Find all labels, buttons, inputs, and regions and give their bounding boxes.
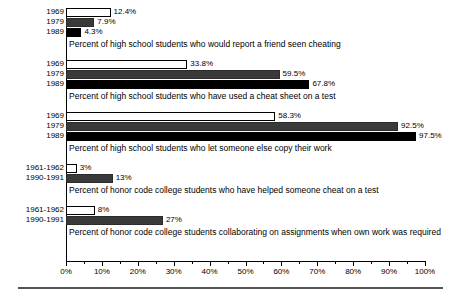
x-tick-major	[102, 262, 103, 266]
x-tick-label: 10%	[82, 267, 122, 277]
bar-group: 196933.8%197959.5%198967.8%Percent of hi…	[0, 60, 455, 103]
x-tick-label: 70%	[297, 267, 337, 277]
bar-category-label: 1989	[0, 79, 64, 89]
bar-value-label: 7.9%	[97, 17, 115, 27]
bar-category-label: 1969	[0, 7, 64, 17]
x-tick-major	[210, 262, 211, 266]
group-spacer	[0, 155, 455, 164]
bar	[66, 164, 77, 173]
x-tick-label: 80%	[333, 267, 373, 277]
x-tick-label: 100%	[405, 267, 445, 277]
bar-row: 1990-199113%	[0, 174, 455, 184]
group-spacer	[0, 51, 455, 60]
x-tick-major	[174, 262, 175, 266]
bar-value-label: 12.4%	[114, 7, 137, 17]
bar-row: 1990-199127%	[0, 216, 455, 226]
x-tick-minor	[299, 262, 300, 264]
bar-category-label: 1990-1991	[0, 173, 64, 183]
x-tick-label: 60%	[261, 267, 301, 277]
bar	[66, 28, 81, 37]
x-tick-minor	[192, 262, 193, 264]
bar	[66, 132, 416, 141]
bar-category-label: 1990-1991	[0, 215, 64, 225]
bar-value-label: 67.8%	[312, 79, 335, 89]
bar-row: 19797.9%	[0, 18, 455, 28]
cheating-statistics-bar-chart: 196912.4%19797.9%19894.3%Percent of high…	[0, 0, 455, 297]
bar-category-label: 1961-1962	[0, 205, 64, 215]
bar-category-label: 1979	[0, 17, 64, 27]
bar-value-label: 92.5%	[401, 121, 424, 131]
x-tick-minor	[228, 262, 229, 264]
bar-category-label: 1989	[0, 131, 64, 141]
x-tick-label: 50%	[226, 267, 266, 277]
bar-value-label: 3%	[80, 163, 92, 173]
bar-value-label: 8%	[98, 205, 110, 215]
bar	[66, 174, 113, 183]
bar	[66, 216, 163, 225]
group-caption-row: Percent of high school students who let …	[0, 142, 455, 155]
x-tick-minor	[335, 262, 336, 264]
x-tick-major	[138, 262, 139, 266]
bar-row: 198967.8%	[0, 80, 455, 90]
x-tick-minor	[84, 262, 85, 264]
x-tick-major	[246, 262, 247, 266]
bar-value-label: 27%	[166, 215, 182, 225]
bar	[66, 122, 398, 131]
x-tick-label: 40%	[190, 267, 230, 277]
group-caption-row: Percent of honor code college students c…	[0, 226, 455, 239]
group-caption: Percent of honor code college students w…	[69, 184, 379, 197]
bar-row: 196958.3%	[0, 112, 455, 122]
bar	[66, 60, 187, 69]
x-tick-minor	[156, 262, 157, 264]
bar-category-label: 1979	[0, 69, 64, 79]
x-tick-major	[66, 262, 67, 266]
bar-group: 196912.4%19797.9%19894.3%Percent of high…	[0, 8, 455, 51]
bar-group: 1961-19628%1990-199127%Percent of honor …	[0, 206, 455, 239]
bar-category-label: 1969	[0, 59, 64, 69]
x-tick-label: 90%	[369, 267, 409, 277]
bar-row: 1961-19623%	[0, 164, 455, 174]
bar-value-label: 13%	[116, 173, 132, 183]
bar-value-label: 4.3%	[84, 27, 102, 37]
group-caption-row: Percent of high school students who have…	[0, 90, 455, 103]
bar-value-label: 59.5%	[283, 69, 306, 79]
bottom-divider	[18, 287, 443, 289]
bar-row: 196912.4%	[0, 8, 455, 18]
group-spacer	[0, 197, 455, 206]
bar	[66, 112, 275, 121]
bar	[66, 80, 309, 89]
bar-value-label: 33.8%	[190, 59, 213, 69]
group-caption-row: Percent of honor code college students w…	[0, 184, 455, 197]
bar-category-label: 1989	[0, 27, 64, 37]
bar-row: 198997.5%	[0, 132, 455, 142]
bar	[66, 206, 95, 215]
group-caption: Percent of honor code college students c…	[69, 226, 441, 239]
group-caption-row: Percent of high school students who woul…	[0, 38, 455, 51]
x-tick-major	[353, 262, 354, 266]
bar-category-label: 1979	[0, 121, 64, 131]
group-caption: Percent of high school students who have…	[69, 90, 336, 103]
group-caption: Percent of high school students who woul…	[69, 38, 341, 51]
x-tick-label: 20%	[118, 267, 158, 277]
bar-category-label: 1961-1962	[0, 163, 64, 173]
bar-category-label: 1969	[0, 111, 64, 121]
bar	[66, 8, 111, 17]
plot-area: 196912.4%19797.9%19894.3%Percent of high…	[0, 8, 455, 239]
x-tick-minor	[407, 262, 408, 264]
x-tick-label: 0%	[46, 267, 86, 277]
x-tick-label: 30%	[154, 267, 194, 277]
bar-value-label: 58.3%	[278, 111, 301, 121]
x-tick-major	[389, 262, 390, 266]
x-tick-major	[425, 262, 426, 266]
bar-row: 196933.8%	[0, 60, 455, 70]
bar-group: 196958.3%197992.5%198997.5%Percent of hi…	[0, 112, 455, 155]
group-spacer	[0, 103, 455, 112]
bar	[66, 70, 280, 79]
bar-value-label: 97.5%	[419, 131, 442, 141]
x-tick-major	[317, 262, 318, 266]
x-tick-minor	[371, 262, 372, 264]
x-tick-minor	[120, 262, 121, 264]
x-tick-minor	[263, 262, 264, 264]
group-caption: Percent of high school students who let …	[69, 142, 332, 155]
bar-row: 197959.5%	[0, 70, 455, 80]
